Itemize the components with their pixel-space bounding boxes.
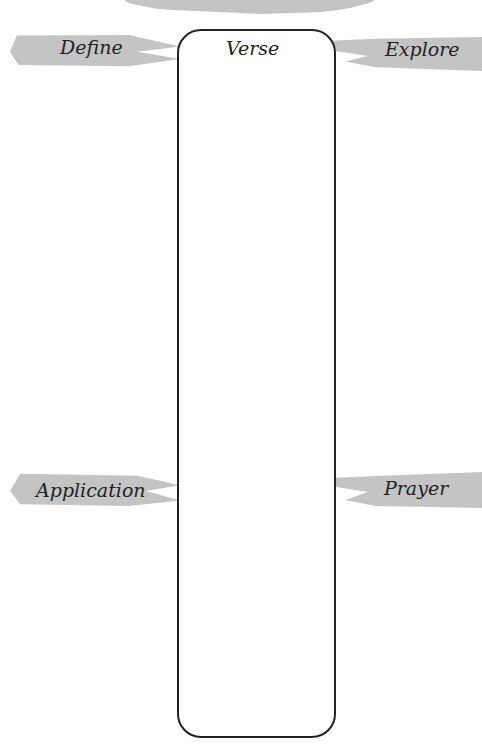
prayer-label: Prayer xyxy=(384,477,448,499)
top-brush-stroke xyxy=(115,0,380,14)
explore-label: Explore xyxy=(385,38,460,60)
define-label: Define xyxy=(60,36,123,58)
verse-title: Verse xyxy=(226,37,279,59)
application-label: Application xyxy=(36,479,146,501)
verse-writing-box[interactable] xyxy=(177,29,336,738)
